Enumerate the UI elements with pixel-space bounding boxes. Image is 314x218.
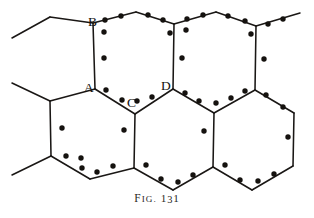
electron-dot xyxy=(255,178,260,183)
electron-dot xyxy=(78,155,83,160)
electron-dot xyxy=(110,163,115,168)
hex-mid-right-up xyxy=(173,89,214,113)
electron-dot xyxy=(261,56,266,61)
figure-caption: FIG. 131 xyxy=(0,192,314,204)
electron-dot xyxy=(213,100,218,105)
hex2-top-left-edge xyxy=(174,12,216,24)
far-right-vertical xyxy=(293,113,294,166)
electron-dot xyxy=(102,17,107,22)
electron-dot xyxy=(183,27,188,32)
electron-dot xyxy=(103,87,108,92)
electron-dot xyxy=(59,125,64,130)
hexB-left-vertical xyxy=(134,114,135,168)
bond-right-vertical xyxy=(255,26,256,90)
electron-dot xyxy=(285,134,290,139)
electron-dot xyxy=(196,98,201,103)
electron-dot xyxy=(79,165,84,170)
electron-dot xyxy=(201,128,206,133)
electron-dot xyxy=(160,17,165,22)
hexagonal-lattice-diagram: ABCD xyxy=(0,0,314,218)
electron-dot xyxy=(248,31,253,36)
caption-digit-2: 3 xyxy=(167,194,173,205)
electron-dot xyxy=(237,177,242,182)
hex2-top-right-edge xyxy=(216,12,256,26)
bottom-edge-6 xyxy=(252,166,293,190)
electron-dot xyxy=(118,13,123,18)
hex-mid-right-down xyxy=(214,90,255,113)
caption-prefix-initial: F xyxy=(134,192,142,204)
bottom-edge-4 xyxy=(173,167,213,190)
electron-dot xyxy=(222,162,227,167)
far-right-upper-edge xyxy=(255,90,294,113)
bottom-edge-5 xyxy=(213,167,252,190)
electron-dot xyxy=(119,97,124,102)
hex1-top-left-edge xyxy=(93,12,136,23)
electron-dot xyxy=(280,16,285,21)
bottom-edge-3 xyxy=(134,168,173,190)
electron-dot xyxy=(175,179,180,184)
bond-D-vertical xyxy=(173,24,174,89)
electron-dot xyxy=(271,171,276,176)
electron-dot xyxy=(158,176,163,181)
bond-lines-group xyxy=(12,12,300,190)
hexA-left-vertical xyxy=(50,101,51,156)
stub-left-lower xyxy=(12,156,51,175)
electron-dot xyxy=(121,127,126,132)
electron-dot xyxy=(149,94,154,99)
electron-dot xyxy=(280,104,285,109)
vertex-label-c: C xyxy=(127,95,136,110)
electron-dot xyxy=(200,12,205,17)
electron-dot xyxy=(143,162,148,167)
electron-dot xyxy=(265,21,270,26)
electron-dot xyxy=(184,16,189,21)
electron-dot xyxy=(242,18,247,23)
stub-left-upper xyxy=(12,83,50,101)
stub-top-right xyxy=(256,13,300,26)
upper-left-top-edge xyxy=(50,17,93,23)
caption-prefix-rest: IG. xyxy=(142,194,157,204)
electron-dot xyxy=(182,90,187,95)
vertex-label-b: B xyxy=(88,14,97,29)
electron-dot xyxy=(263,92,268,97)
electron-dot xyxy=(225,13,230,18)
electron-dot xyxy=(101,55,106,60)
hex1-top-right-edge xyxy=(136,12,174,24)
vertex-label-a: A xyxy=(84,80,94,95)
electron-dot xyxy=(242,88,247,93)
hexC-left-vertical xyxy=(213,113,214,167)
stub-top-left xyxy=(12,17,50,38)
electron-dot xyxy=(167,30,172,35)
figure-container: ABCD FIG. 131 xyxy=(0,0,314,218)
caption-digit-3: 1 xyxy=(173,192,180,204)
caption-number: 131 xyxy=(161,192,180,204)
electron-dot xyxy=(228,95,233,100)
vertex-label-d: D xyxy=(161,78,171,93)
electron-dot xyxy=(179,55,184,60)
electron-dot xyxy=(94,169,99,174)
electron-dot xyxy=(63,153,68,158)
electron-dot xyxy=(190,172,195,177)
electron-dot xyxy=(101,29,106,34)
vertex-labels-group: ABCD xyxy=(84,14,171,110)
electron-dot xyxy=(145,12,150,17)
